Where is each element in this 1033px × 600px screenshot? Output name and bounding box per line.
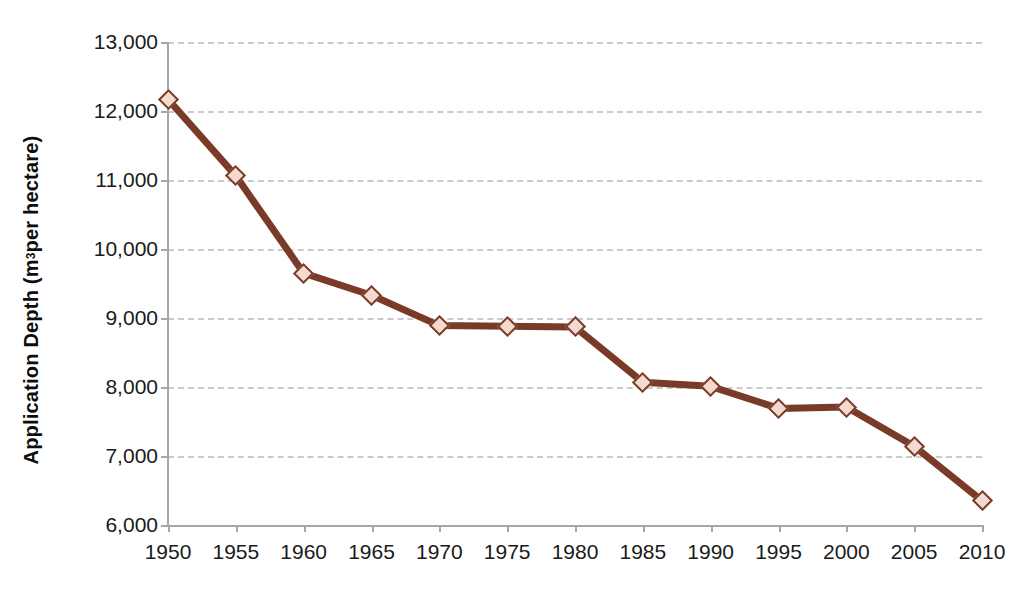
line-chart: Application Depth (m3 per hectare) 6,000… xyxy=(0,0,1033,600)
series-line xyxy=(0,0,1033,600)
